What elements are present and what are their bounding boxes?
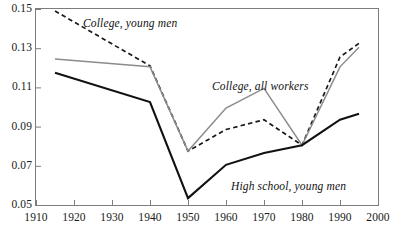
series-annotation-label: High school, young men (231, 180, 346, 192)
x-tick-label: 2000 (354, 211, 402, 223)
y-tick-label: 0.09 (0, 120, 32, 132)
y-axis-ticks (36, 10, 41, 206)
data-series-group (55, 11, 359, 198)
y-tick-label: 0.11 (0, 80, 32, 92)
series-line-1 (55, 47, 359, 151)
chart-container: 0.050.070.090.110.130.15 191019201930194… (0, 0, 413, 239)
y-tick-label: 0.05 (0, 198, 32, 210)
y-tick-label: 0.13 (0, 41, 32, 53)
axis-frame (36, 9, 379, 206)
x-axis-ticks (37, 200, 379, 205)
line-chart-plot (0, 0, 413, 239)
y-tick-label: 0.07 (0, 159, 32, 171)
y-tick-label: 0.15 (0, 2, 32, 14)
series-annotation-label: College, all workers (212, 80, 309, 92)
plot-frame (36, 9, 379, 206)
series-annotation-label: College, young men (83, 17, 177, 29)
